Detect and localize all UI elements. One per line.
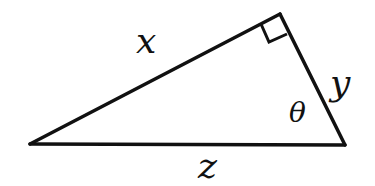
label-theta: θ [289,96,306,129]
label-z: z [197,145,218,186]
triangle-diagram: x y z θ [0,0,375,186]
label-y: y [328,62,351,103]
label-x: x [136,20,156,61]
right-angle-marker [261,24,287,42]
side-z [30,144,345,145]
